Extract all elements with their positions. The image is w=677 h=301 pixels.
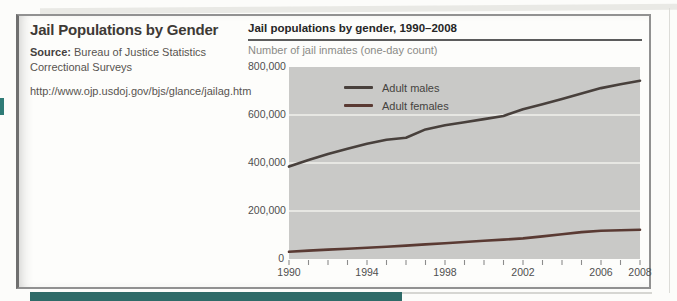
x-tick-label: 2006 [589,266,612,278]
chart-title-rule [248,39,642,41]
caption-column: Jail Populations by Gender Source: Burea… [30,21,256,98]
scanned-page: Jail Populations by Gender Source: Burea… [0,0,677,301]
adult-males-line-swatch [344,86,373,89]
y-tick-label: 0 [248,253,284,264]
chart-title: Jail populations by gender, 1990–2008 [248,22,646,35]
x-axis-labels: 1990 1994 1998 2002 2006 2008 [289,266,640,279]
legend-item-adult-females: Adult females [344,100,449,112]
figure-title: Jail Populations by Gender [30,21,256,38]
chart-overlay: Adult males Adult females [289,67,640,259]
chart-column: Jail populations by gender, 1990–2008 Nu… [248,22,646,275]
y-tick-label: 200,000 [248,205,284,216]
line-chart: 800,000 600,000 400,000 200,000 0 Adult … [248,59,646,275]
x-tick-label: 1994 [355,266,378,278]
legend-item-adult-males: Adult males [344,82,449,94]
x-tick-label: 2002 [511,266,534,278]
x-tick-label: 2008 [628,266,651,278]
adult-females-line-swatch [344,104,373,107]
page-edge-line [669,8,670,293]
y-tick-label: 600,000 [248,109,284,120]
chart-legend: Adult males Adult females [344,82,449,112]
figure-panel: Jail Populations by Gender Source: Burea… [16,14,651,289]
next-panel-header-edge [30,292,402,301]
source-url: http://www.ojp.usdoj.gov/bjs/glance/jail… [30,84,256,98]
legend-label: Adult males [382,82,439,94]
x-tick-label: 1990 [277,266,300,278]
page-edge-shadow [40,4,677,14]
y-tick-label: 800,000 [248,61,284,72]
page-margin-tab [0,98,4,115]
y-tick-label: 400,000 [248,157,284,168]
x-tick-label: 1998 [433,266,456,278]
legend-label: Adult females [382,100,449,112]
source-line: Source: Bureau of Justice Statistics Cor… [30,45,256,75]
source-label: Source: [30,46,71,58]
chart-y-axis-caption: Number of jail inmates (one-day count) [248,44,646,57]
page-bottom-edge [402,292,652,294]
